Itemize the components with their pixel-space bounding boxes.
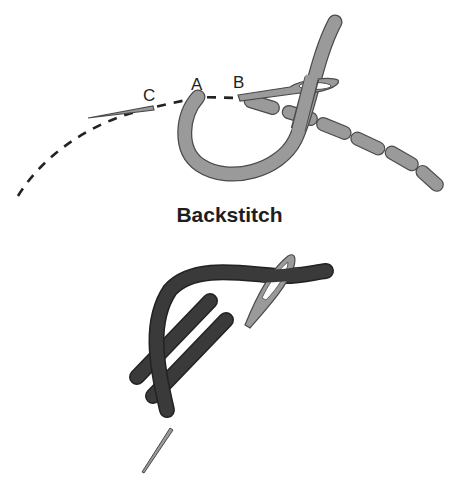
needle-at-c: [88, 106, 154, 118]
completed-stitches: [243, 93, 446, 194]
top-figure: C A B: [18, 22, 446, 196]
bottom-figure: [137, 255, 326, 473]
point-label-c: C: [143, 86, 155, 105]
caption-backstitch: Backstitch: [0, 203, 459, 227]
needle-tip: [142, 428, 173, 473]
needle-top: [238, 78, 338, 101]
backstitch-illustration: C A B: [0, 0, 459, 480]
point-label-a: A: [191, 75, 203, 94]
point-label-b: B: [233, 73, 244, 92]
diagram-canvas: C A B Backstitch: [0, 0, 459, 480]
